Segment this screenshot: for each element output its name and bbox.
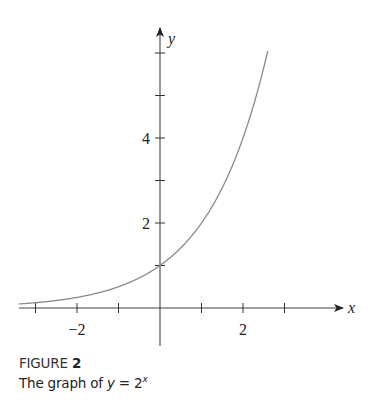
x-axis-label: x <box>347 299 355 316</box>
y-axis-label: y <box>166 30 176 48</box>
figure-number: 2 <box>72 355 81 371</box>
caption-text: The graph of <box>19 375 107 391</box>
x-tick-labels: −22 <box>68 321 247 338</box>
figure-caption: The graph of y = 2x <box>19 375 148 391</box>
figure-label-prefix: FIGURE <box>19 355 68 371</box>
figure-label: FIGURE 2 <box>19 355 81 371</box>
caption-variable: y <box>107 375 115 391</box>
x-tick-label: 2 <box>239 321 247 338</box>
exponential-curve <box>19 51 268 304</box>
caption-exponent: x <box>142 374 147 384</box>
y-tick-labels: 24 <box>142 130 150 232</box>
exponential-graph: −22 24 x y <box>0 0 378 350</box>
caption-equation: = 2 <box>115 375 143 391</box>
y-tick-label: 4 <box>142 130 150 147</box>
y-tick-label: 2 <box>142 215 150 232</box>
x-tick-label: −2 <box>68 321 85 338</box>
